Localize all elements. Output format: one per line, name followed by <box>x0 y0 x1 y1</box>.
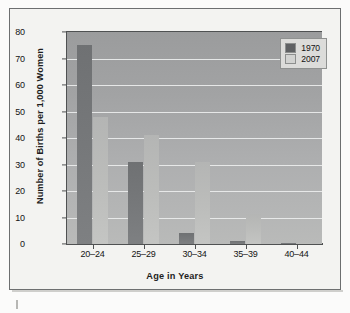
y-tick-label-0: 0 <box>0 239 25 249</box>
bar-2007-30-34 <box>195 162 210 244</box>
y-tick-label-80: 80 <box>0 27 25 37</box>
y-axis-title: Number of Births per 1,000 Women <box>35 26 45 226</box>
legend-swatch-2007-icon <box>285 54 296 64</box>
chart-legend: 1970 2007 <box>280 38 327 69</box>
x-tick-mark-2 <box>195 245 196 249</box>
legend-item-2007: 2007 <box>285 54 320 64</box>
y-tick-mark-80 <box>62 31 66 32</box>
y-tick-mark-70 <box>62 58 66 59</box>
x-tick-label-4: 40–44 <box>267 249 327 259</box>
bar-1970-25-29 <box>128 162 143 244</box>
bar-2007-20-24 <box>93 117 108 244</box>
y-tick-mark-0 <box>62 243 66 244</box>
page-corner-mark <box>16 300 18 309</box>
bar-2007-35-39 <box>246 214 261 244</box>
bar-group <box>169 32 220 244</box>
y-tick-label-10: 10 <box>0 213 25 223</box>
y-tick-mark-40 <box>62 137 66 138</box>
bar-2007-40-44 <box>297 243 312 244</box>
y-tick-mark-60 <box>62 84 66 85</box>
x-tick-mark-1 <box>144 245 145 249</box>
bar-group <box>220 32 271 244</box>
x-tick-mark-3 <box>246 245 247 249</box>
legend-item-1970: 1970 <box>285 43 320 53</box>
bar-1970-20-24 <box>77 45 92 244</box>
frame-shadow <box>12 290 343 292</box>
y-tick-label-40: 40 <box>0 133 25 143</box>
x-axis-title: Age in Years <box>10 271 340 281</box>
bar-1970-35-39 <box>230 241 245 244</box>
y-tick-label-60: 60 <box>0 80 25 90</box>
legend-label-2007: 2007 <box>301 54 320 64</box>
bar-group <box>118 32 169 244</box>
bar-2007-25-29 <box>144 135 159 244</box>
x-tick-mark-4 <box>297 245 298 249</box>
bar-1970-30-34 <box>179 233 194 244</box>
legend-label-1970: 1970 <box>301 43 320 53</box>
y-tick-label-50: 50 <box>0 107 25 117</box>
y-tick-label-30: 30 <box>0 160 25 170</box>
y-tick-mark-10 <box>62 217 66 218</box>
x-tick-mark-0 <box>93 245 94 249</box>
bar-1970-40-44 <box>281 243 296 244</box>
chart-page: Number of Births per 1,000 Women Age in … <box>0 0 350 313</box>
y-tick-mark-20 <box>62 190 66 191</box>
y-tick-mark-50 <box>62 111 66 112</box>
legend-swatch-1970-icon <box>285 43 296 53</box>
y-tick-label-70: 70 <box>0 54 25 64</box>
chart-frame: Number of Births per 1,000 Women Age in … <box>9 8 341 290</box>
bar-group <box>67 32 118 244</box>
y-tick-mark-30 <box>62 164 66 165</box>
y-tick-label-20: 20 <box>0 186 25 196</box>
